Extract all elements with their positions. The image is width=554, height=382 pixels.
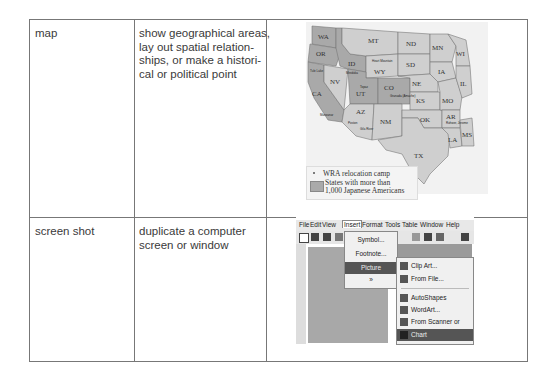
- legend-shaded-label: States with more than 1,000 Japanese Ame…: [325, 179, 404, 195]
- insert-menu: Symbol... Footnote... Picture »: [344, 231, 398, 289]
- svg-text:IL: IL: [460, 80, 467, 88]
- camp-dot-icon: [313, 172, 315, 174]
- chart-item: Chart: [397, 329, 473, 341]
- svg-text:Minidoka: Minidoka: [346, 71, 358, 75]
- row-2-purpose: duplicate a computer screen or window: [139, 225, 246, 252]
- format-painter-icon: [436, 233, 444, 241]
- autoshapes-item: AutoShapes: [397, 292, 473, 304]
- svg-text:NM: NM: [380, 118, 392, 126]
- purpose-line: show geographical areas,: [139, 27, 270, 41]
- svg-text:NV: NV: [330, 78, 340, 86]
- scanner-icon: [400, 318, 408, 326]
- svg-text:Manzanar: Manzanar: [320, 113, 333, 117]
- menu-insert: Insert: [342, 220, 362, 228]
- item-label: Chart: [411, 329, 427, 341]
- svg-text:WI: WI: [456, 50, 466, 58]
- svg-text:NE: NE: [412, 80, 421, 88]
- svg-text:Poston: Poston: [348, 121, 358, 125]
- svg-text:Topaz: Topaz: [360, 85, 369, 89]
- svg-text:MN: MN: [432, 44, 443, 52]
- item-label: Clip Art...: [411, 260, 437, 272]
- vertical-ruler: [296, 244, 306, 344]
- autoshapes-icon: [400, 294, 408, 302]
- svg-text:MT: MT: [368, 37, 379, 45]
- svg-text:SD: SD: [406, 61, 415, 69]
- purpose-line: ships, or make a histori-: [139, 54, 270, 68]
- svg-text:IA: IA: [438, 68, 445, 76]
- row-1-purpose: show geographical areas, lay out spatial…: [139, 27, 270, 81]
- svg-text:Granada (Amache): Granada (Amache): [390, 94, 416, 98]
- svg-text:AR: AR: [446, 113, 456, 121]
- clip-art-icon: [400, 262, 408, 270]
- chart-icon: [400, 331, 408, 339]
- item-label: From File...: [411, 273, 444, 285]
- purpose-line: screen or window: [139, 239, 246, 253]
- legend-camp-label: WRA relocation camp: [323, 169, 390, 178]
- from-file-icon: [400, 275, 408, 283]
- menu-bar: File Edit View Insert Format Tools Table…: [296, 220, 474, 231]
- shaded-swatch-icon: [310, 181, 324, 192]
- svg-text:WY: WY: [374, 68, 386, 76]
- purpose-line: cal or political point: [139, 68, 270, 82]
- wordart-icon: [400, 306, 408, 314]
- insert-table-icon: [461, 233, 469, 241]
- purpose-line: duplicate a computer: [139, 225, 246, 239]
- from-file-item: From File...: [397, 273, 473, 285]
- open-icon: [311, 233, 319, 241]
- paste-icon: [412, 233, 420, 241]
- svg-text:ND: ND: [406, 40, 416, 48]
- picture-submenu: Clip Art... From File... AutoShapes Word…: [396, 257, 474, 345]
- row-1-type: map: [35, 27, 57, 41]
- insert-footnote-item: Footnote...: [345, 248, 397, 260]
- menu-window: Window: [420, 221, 443, 228]
- wordart-item: WordArt...: [397, 304, 473, 316]
- word-screenshot-image: File Edit View Insert Format Tools Table…: [296, 217, 474, 347]
- purpose-line: lay out spatial relation-: [139, 41, 270, 55]
- svg-text:OK: OK: [420, 116, 430, 124]
- svg-text:Rohwer, Jerome: Rohwer, Jerome: [446, 121, 468, 125]
- menu-tools: Tools: [385, 221, 400, 228]
- svg-text:Gila River: Gila River: [360, 127, 373, 131]
- item-label: AutoShapes: [411, 292, 446, 304]
- save-icon: [323, 233, 331, 241]
- menu-file: File: [299, 221, 309, 228]
- insert-picture-item: Picture: [345, 262, 397, 274]
- svg-text:LA: LA: [448, 136, 457, 144]
- clip-art-item: Clip Art...: [397, 260, 473, 272]
- legend-line: 1,000 Japanese Americans: [325, 187, 404, 195]
- menu-format: Format: [362, 221, 383, 228]
- svg-text:MS: MS: [462, 131, 472, 139]
- new-doc-icon: [299, 233, 309, 243]
- copy-icon: [424, 233, 432, 241]
- expand-menu-chevron-icon: »: [345, 274, 397, 286]
- svg-text:ID: ID: [348, 60, 355, 68]
- svg-text:OR: OR: [316, 50, 326, 58]
- svg-text:MO: MO: [442, 97, 453, 105]
- print-icon: [335, 233, 343, 241]
- svg-text:WA: WA: [318, 33, 329, 41]
- column-divider: [134, 20, 135, 361]
- menu-separator: [401, 288, 469, 289]
- map-legend: WRA relocation camp States with more tha…: [306, 166, 418, 200]
- menu-edit: Edit: [310, 221, 321, 228]
- svg-text:UT: UT: [356, 90, 366, 98]
- item-label: WordArt...: [411, 304, 440, 316]
- menu-view: View: [322, 221, 336, 228]
- scanner-camera-item: From Scanner or Camera...: [397, 316, 473, 328]
- row-2-type: screen shot: [35, 225, 94, 239]
- insert-symbol-item: Symbol...: [345, 234, 397, 246]
- svg-text:Tule Lake: Tule Lake: [310, 69, 323, 73]
- svg-text:CA: CA: [312, 90, 322, 98]
- menu-help: Help: [446, 221, 459, 228]
- menu-table: Table: [402, 221, 418, 228]
- document-area-right: [396, 244, 472, 257]
- svg-text:CO: CO: [384, 84, 394, 92]
- svg-text:KS: KS: [416, 97, 425, 105]
- svg-text:TX: TX: [414, 152, 423, 160]
- svg-text:Heart Mountain: Heart Mountain: [372, 59, 393, 63]
- svg-text:AZ: AZ: [356, 108, 365, 116]
